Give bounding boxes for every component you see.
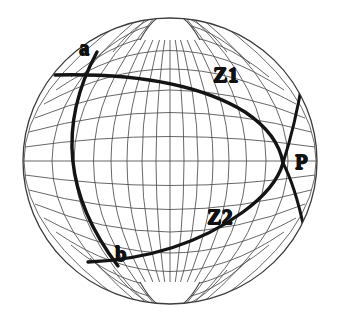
label-a: a <box>79 38 90 59</box>
label-p: P <box>295 152 308 173</box>
label-z2: Z2 <box>207 206 233 228</box>
label-b: b <box>115 244 127 265</box>
label-z1: Z1 <box>213 64 239 86</box>
stereonet-canvas <box>0 0 343 321</box>
stereonet-figure: a Z1 P Z2 b <box>0 0 343 321</box>
